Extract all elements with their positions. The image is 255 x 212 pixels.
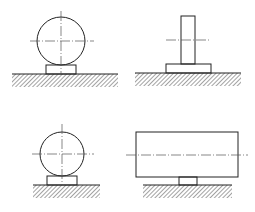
support-stem — [179, 177, 197, 185]
beam-body — [136, 132, 238, 177]
ground-hatch — [33, 185, 100, 198]
base-block — [166, 64, 211, 73]
figure-beam-on-narrow-support — [126, 132, 248, 198]
diagram-canvas — [0, 0, 255, 212]
figure-post-on-base-plate — [135, 16, 241, 86]
ground-hatch — [143, 185, 232, 198]
figure-cylinder-on-block-support — [12, 11, 118, 87]
ground-hatch — [135, 73, 241, 86]
figure-cylinder-on-block-support-small — [32, 124, 100, 198]
ground-hatch — [12, 74, 118, 87]
